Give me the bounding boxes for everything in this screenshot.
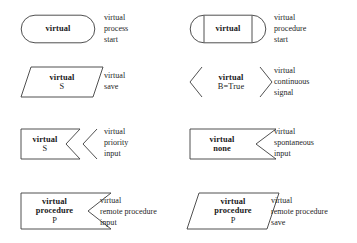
caption-line-1: virtual	[271, 196, 328, 207]
caption-line-2: process	[104, 24, 128, 35]
caption-line-2: procedure	[274, 24, 306, 35]
caption-line-2: save	[104, 82, 125, 93]
shape-parallelogram	[20, 66, 104, 98]
caption-line-2: priority	[104, 138, 128, 149]
caption-line-1: virtual	[104, 127, 128, 138]
caption-line-2: continuous	[274, 77, 310, 88]
caption-line-3: input	[274, 149, 314, 160]
legend-item-virtual-procedure-start: virtual	[189, 14, 269, 44]
shape-flag-notch	[189, 128, 277, 160]
caption-line-1: virtual	[100, 196, 157, 207]
caption-line-2: remote procedure	[100, 207, 157, 218]
caption-virtual-spontaneous-input: virtual spontaneous input	[274, 127, 314, 159]
caption-line-2: remote procedure	[271, 207, 328, 218]
legend-item-virtual-priority-input: virtual S	[20, 128, 100, 160]
caption-line-1: virtual	[104, 13, 128, 24]
caption-line-3: input	[104, 149, 128, 160]
caption-line-3: save	[271, 218, 328, 229]
caption-virtual-procedure-start: virtual procedure start	[274, 13, 306, 45]
shape-flag-notch	[20, 192, 112, 230]
caption-line-1: virtual	[104, 71, 125, 82]
caption-line-3: input	[100, 218, 157, 229]
caption-line-2: spontaneous	[274, 138, 314, 149]
caption-line-3: signal	[274, 88, 310, 99]
shape-open-chevrons	[189, 66, 273, 98]
caption-line-3: start	[104, 35, 128, 46]
caption-virtual-priority-input: virtual priority input	[104, 127, 128, 159]
shape-flag-double-notch	[20, 128, 98, 160]
legend-item-virtual-continuous-signal: virtual B=True	[189, 66, 275, 98]
caption-line-1: virtual	[274, 66, 310, 77]
flowchart-symbol-legend: virtual virtual process start virtual vi…	[0, 0, 357, 243]
shape-stadium	[20, 14, 96, 44]
shape-parallelogram	[186, 192, 280, 230]
legend-item-virtual-remote-procedure-save: virtual procedure P	[186, 192, 282, 230]
legend-item-virtual-save: virtual S	[20, 66, 106, 98]
caption-virtual-remote-procedure-input: virtual remote procedure input	[100, 196, 157, 228]
caption-virtual-process-start: virtual process start	[104, 13, 128, 45]
caption-line-1: virtual	[274, 127, 314, 138]
caption-virtual-continuous-signal: virtual continuous signal	[274, 66, 310, 98]
shape-stadium-subroutine	[189, 14, 267, 44]
legend-item-virtual-process-start: virtual	[20, 14, 98, 44]
caption-virtual-remote-procedure-save: virtual remote procedure save	[271, 196, 328, 228]
caption-line-1: virtual	[274, 13, 306, 24]
caption-line-3: start	[274, 35, 306, 46]
caption-virtual-save: virtual save	[104, 71, 125, 93]
legend-item-virtual-spontaneous-input: virtual none	[189, 128, 279, 160]
